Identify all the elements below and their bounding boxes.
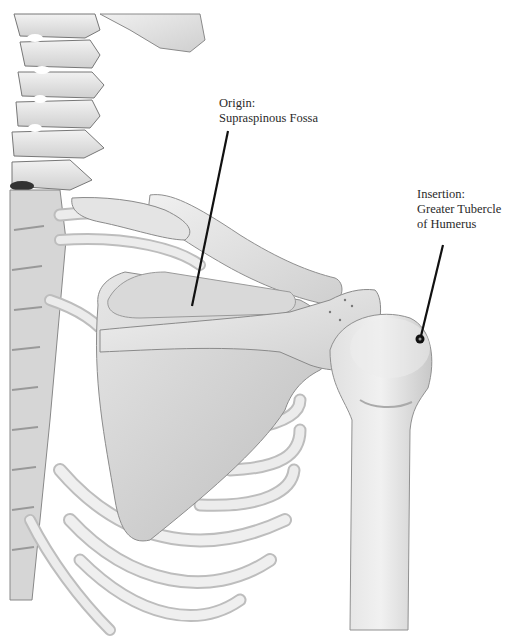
anatomy-diagram: Origin: Supraspinous Fossa Insertion: Gr… — [0, 0, 513, 644]
insertion-label-line-2: of Humerus — [417, 217, 501, 232]
humerus-head — [350, 318, 430, 378]
origin-label-title: Origin: — [219, 96, 318, 111]
skull-base — [100, 14, 205, 52]
insertion-label: Insertion: Greater Tubercle of Humerus — [417, 187, 501, 232]
cervical-vertebrae — [10, 14, 104, 191]
insertion-label-title: Insertion: — [417, 187, 501, 202]
humerus — [330, 314, 432, 630]
insertion-label-line-1: Greater Tubercle — [417, 202, 501, 217]
insertion-leader-line — [421, 245, 443, 336]
origin-label-text: Supraspinous Fossa — [219, 111, 318, 126]
origin-label: Origin: Supraspinous Fossa — [219, 96, 318, 126]
